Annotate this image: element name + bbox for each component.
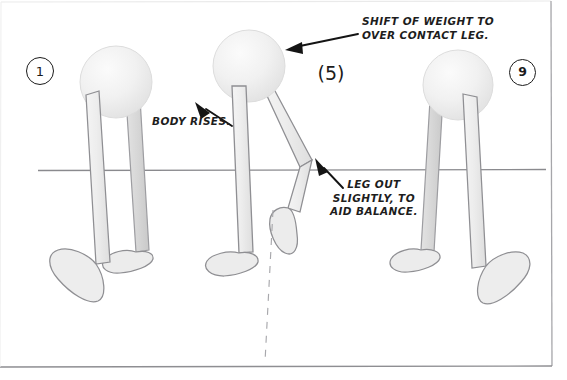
figure9-rear-leg [421, 97, 443, 252]
frame-number-9: 9 [518, 66, 527, 79]
figure9-front-leg [463, 94, 486, 268]
figure5-support-foot [206, 252, 258, 276]
figure5-body [213, 30, 285, 102]
arrow-shift-of-weight [285, 34, 358, 54]
figure5-support-leg [232, 86, 253, 253]
sketch-page: SHIFT OF WEIGHT TO OVER CONTACT LEG. BOD… [0, 0, 567, 380]
figure-frame-1 [50, 46, 153, 302]
figure5-free-leg-thigh [262, 85, 312, 167]
frame-paren-open: ( [318, 62, 325, 84]
frame-paren-close: ) [337, 62, 344, 84]
frame-label-5: (5) [310, 58, 352, 88]
figure5-free-leg-shin [288, 160, 312, 212]
figure5-free-foot [270, 207, 298, 253]
annotation-shift-of-weight: SHIFT OF WEIGHT TO OVER CONTACT LEG. [362, 15, 494, 42]
figure-frame-5 [206, 30, 312, 276]
figure9-body [423, 50, 493, 120]
annotation-body-rises: BODY RISES. [152, 115, 231, 129]
frame-number-1: 1 [36, 64, 44, 77]
frame-label-9: 9 [509, 59, 536, 86]
frame-number-5: 5 [325, 64, 337, 83]
frame-label-1: 1 [26, 57, 54, 85]
figure9-rear-foot [390, 249, 440, 272]
sketch-canvas [0, 0, 567, 380]
annotation-leg-out: LEG OUT SLIGHTLY, TO AID BALANCE. [330, 178, 418, 219]
figure-frame-9 [390, 50, 530, 304]
figure1-rear-leg [126, 98, 149, 252]
